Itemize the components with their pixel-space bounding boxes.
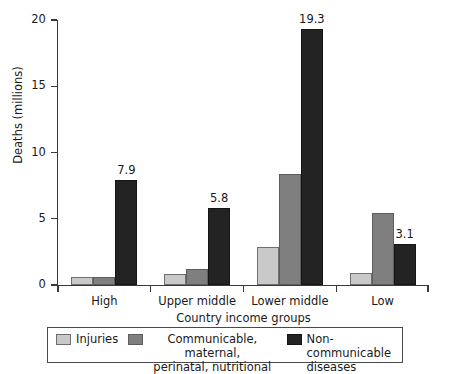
- category-label-lower-middle: Lower middle: [244, 295, 337, 308]
- chart-legend: Injuries Communicable, maternal, perinat…: [47, 327, 403, 363]
- bar-lower-middle-series-1: [279, 174, 301, 285]
- x-tick-2: [243, 286, 244, 292]
- bar-lower-middle-series-2: [301, 29, 323, 285]
- bar-upper-middle-series-1: [186, 269, 208, 285]
- legend-swatch-noncommunicable: [287, 334, 302, 345]
- legend-label-noncommunicable-line2: diseases: [307, 360, 357, 374]
- bar-upper-middle-series-2: [208, 208, 230, 285]
- bar-lower-middle-series-0: [257, 247, 279, 285]
- bar-low-series-2: [394, 244, 416, 285]
- category-label-high: High: [58, 295, 151, 308]
- legend-label-injuries: Injuries: [76, 332, 118, 346]
- y-tick-label-0: 0: [6, 279, 46, 291]
- y-tick-0: [51, 284, 57, 285]
- bar-value-label-high: 7.9: [105, 164, 147, 176]
- legend-item-injuries: Injuries: [56, 332, 118, 346]
- y-tick-label-5: 5: [6, 213, 46, 225]
- x-tick-0: [57, 286, 58, 292]
- bar-low-series-0: [350, 273, 372, 285]
- legend-label-noncommunicable: Non-communicable diseases: [307, 332, 402, 374]
- y-tick-5: [51, 218, 57, 219]
- y-tick-label-10: 10: [6, 147, 46, 159]
- bar-value-label-low: 3.1: [384, 228, 426, 240]
- legend-item-noncommunicable: Non-communicable diseases: [287, 332, 402, 374]
- x-tick-1: [150, 286, 151, 292]
- legend-label-noncommunicable-line1: Non-communicable: [307, 332, 391, 360]
- bar-upper-middle-series-0: [164, 274, 186, 285]
- bar-low-series-1: [372, 213, 394, 285]
- legend-item-communicable: Communicable, maternal, perinatal, nutri…: [128, 332, 276, 374]
- bar-value-label-upper-middle: 5.8: [198, 192, 240, 204]
- x-tick-3: [336, 286, 337, 292]
- y-tick-15: [51, 86, 57, 87]
- y-tick-label-20: 20: [6, 14, 46, 26]
- bar-high-series-2: [115, 180, 137, 285]
- y-tick-20: [51, 19, 57, 20]
- legend-swatch-communicable: [128, 334, 143, 345]
- bar-chart-figure: Deaths (millions) Country income groups …: [0, 0, 452, 374]
- category-label-upper-middle: Upper middle: [151, 295, 244, 308]
- bar-value-label-lower-middle: 19.3: [291, 13, 333, 25]
- x-tick-4: [427, 286, 428, 292]
- legend-label-communicable-line1: Communicable, maternal,: [167, 332, 257, 360]
- bar-high-series-0: [71, 277, 93, 285]
- plot-area: [58, 18, 429, 285]
- legend-swatch-injuries: [56, 334, 71, 345]
- bar-high-series-1: [93, 277, 115, 285]
- legend-label-communicable-line2: perinatal, nutritional: [153, 360, 271, 374]
- x-axis-title: Country income groups: [58, 311, 429, 325]
- y-tick-label-15: 15: [6, 80, 46, 92]
- y-axis-title: Deaths (millions): [11, 35, 25, 195]
- category-label-low: Low: [336, 295, 429, 308]
- legend-label-communicable: Communicable, maternal, perinatal, nutri…: [148, 332, 276, 374]
- y-tick-10: [51, 152, 57, 153]
